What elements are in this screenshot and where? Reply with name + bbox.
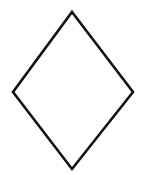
diamond-figure-svg: [0, 0, 144, 175]
canvas-background: [0, 0, 144, 175]
drawing-canvas: [0, 0, 144, 175]
